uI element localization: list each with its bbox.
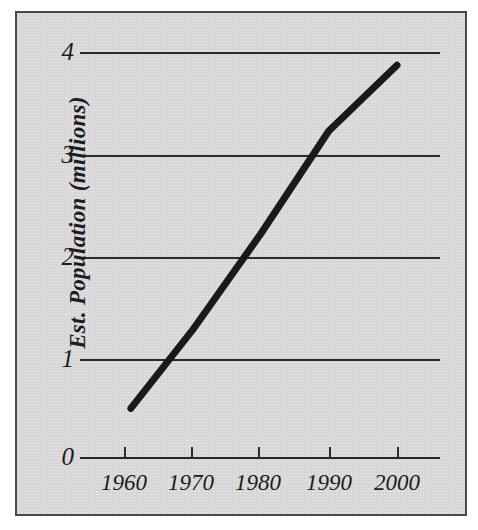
chart-panel: 4 3 2 1 0 1960 1970 1980 1990 2000 Est. … bbox=[15, 11, 467, 516]
plot-area: 4 3 2 1 0 1960 1970 1980 1990 2000 Est. … bbox=[17, 13, 467, 516]
data-series-svg bbox=[17, 13, 467, 516]
figure-container: 4 3 2 1 0 1960 1970 1980 1990 2000 Est. … bbox=[0, 0, 478, 530]
population-line bbox=[131, 65, 397, 408]
